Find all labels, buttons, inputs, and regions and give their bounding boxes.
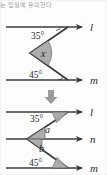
figure-bottom-line-n-label: n [90, 133, 96, 145]
figure-top-angle-x-label: x [40, 48, 46, 59]
separator-down-arrow-icon [45, 90, 58, 104]
figure-bottom-line-l-label: l [90, 106, 93, 118]
figure-top-angle-45-label: 45° [29, 70, 43, 80]
geometry-figure: l m 35° x 45° l [0, 0, 107, 175]
figure-bottom: l n m 35° a b 45° [6, 106, 98, 174]
figure-top-line-m-label: m [90, 74, 98, 86]
figure-bottom-angle-a-label: a [45, 124, 50, 135]
figure-bottom-angle-45-label: 45° [29, 158, 43, 168]
figure-page: 지는 입실에 유의한다 l m 35° x 45° [0, 0, 107, 175]
figure-bottom-angle-a-wedge [27, 127, 45, 139]
figure-top: l m 35° x 45° [6, 21, 98, 86]
figure-top-line-l-label: l [90, 21, 93, 33]
figure-bottom-angle-35-label: 35° [30, 114, 44, 124]
figure-bottom-angle-b-label: b [39, 143, 44, 154]
figure-top-angle-35-label: 35° [31, 31, 45, 41]
figure-bottom-line-m-label: m [90, 162, 98, 174]
